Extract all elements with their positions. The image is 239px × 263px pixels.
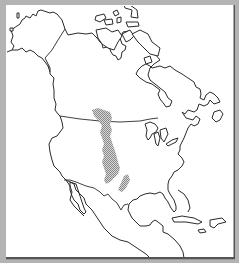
small-island <box>10 28 13 31</box>
arctic-island <box>126 22 139 27</box>
north-america-map <box>0 0 239 263</box>
shaded-region <box>92 108 120 184</box>
arctic-island <box>104 19 113 25</box>
florida <box>178 190 190 212</box>
lake-michigan <box>154 132 160 146</box>
jamaica <box>198 229 206 233</box>
shaded-region-south <box>118 174 130 192</box>
arctic-island <box>113 10 119 16</box>
arctic-island <box>124 5 138 18</box>
arctic-island <box>117 17 121 23</box>
hispaniola <box>210 218 226 228</box>
cuba <box>172 216 202 224</box>
pacific-coastline <box>46 60 150 258</box>
southampton-island <box>144 56 152 64</box>
small-island <box>17 13 19 18</box>
baffin-island <box>132 30 160 56</box>
lake-huron <box>160 128 168 142</box>
newfoundland <box>212 110 223 122</box>
alaska-panhandle <box>12 48 50 72</box>
lake-erie <box>166 138 178 146</box>
alaska-canada-border <box>45 29 65 60</box>
arctic-island <box>96 28 122 50</box>
